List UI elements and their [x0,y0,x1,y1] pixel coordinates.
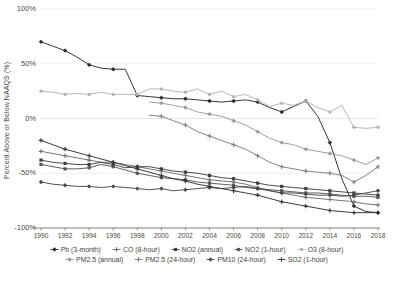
data-point-marker [112,93,115,96]
data-point-marker [352,204,356,208]
data-point-marker [304,187,307,190]
legend-marker-icon [65,256,74,263]
legend-row-2: PM2.5 (annual)PM2.5 (24-hour)PM10 (24-ho… [65,256,328,263]
legend-item-so2-1-hour[interactable]: SO2 (1-hour) [277,256,328,263]
data-point-marker [63,154,67,158]
legend-item-no2-annual[interactable]: NO2 (annual) [171,246,223,253]
legend-marker-icon [134,256,143,263]
legend-marker-icon [206,256,215,263]
legend-item-label: Pb (3-month) [61,246,101,253]
data-point-marker [280,200,284,204]
data-point-marker [376,210,380,214]
legend-item-pb-3-month[interactable]: Pb (3-month) [50,246,101,253]
data-point-marker [207,178,211,182]
data-point-marker [231,189,235,193]
legend-item-co-8-hour[interactable]: CO (8-hour) [112,246,160,253]
data-point-marker [352,210,356,214]
data-point-marker [63,48,67,52]
data-point-marker [88,163,91,166]
data-point-marker [255,129,259,133]
data-point-marker [137,257,141,261]
data-point-marker [231,143,235,147]
data-point-marker [255,154,259,158]
data-point-marker [376,156,380,160]
data-point-marker [328,171,332,175]
data-point-marker [352,180,356,184]
data-point-marker [376,203,380,207]
data-point-marker [174,248,177,251]
data-point-marker [160,167,163,170]
data-point-marker [39,138,43,142]
legend-item-label: PM10 (24-hour) [217,256,265,263]
data-point-marker [136,93,139,96]
data-point-marker [87,184,91,188]
data-point-marker [279,257,283,261]
data-point-marker [231,118,235,122]
legend-item-pm2-5-annual[interactable]: PM2.5 (annual) [65,256,123,263]
legend-item-o3-8-hour[interactable]: O3 (8-hour) [297,246,344,253]
data-point-marker [376,189,380,193]
data-point-marker [280,110,284,114]
series-5 [149,101,380,165]
data-point-marker [63,167,66,170]
data-point-marker [63,93,66,96]
data-point-marker [231,180,235,184]
data-point-marker [39,149,43,153]
data-point-marker [352,126,355,129]
series-4 [39,87,379,129]
legend-item-pm2-5-24-hour[interactable]: PM2.5 (24-hour) [134,256,195,263]
legend-item-label: O3 (8-hour) [308,246,344,253]
data-point-marker [328,197,332,201]
data-point-marker [304,147,308,151]
data-point-marker [111,184,115,188]
data-point-marker [328,189,331,192]
data-point-marker [184,91,187,94]
data-point-marker [159,114,163,118]
data-point-marker [87,154,91,158]
data-point-marker [183,187,187,191]
data-point-marker [304,99,307,102]
data-point-marker [63,162,66,165]
data-point-marker [112,165,115,168]
data-point-marker [39,159,42,162]
data-point-marker [39,40,43,44]
data-point-marker [52,247,56,251]
data-point-marker [280,140,284,144]
data-point-marker [87,93,90,96]
data-point-marker [160,87,163,90]
legend-marker-icon [50,246,59,253]
chart-container: Percent Above or Below NAAQS (%) 100%50%… [0,0,393,282]
legend-item-label: NO2 (1-hour) [245,246,286,253]
data-point-marker [67,257,71,261]
data-point-marker [208,174,211,177]
data-point-marker [376,126,379,129]
data-point-marker [183,97,187,101]
data-point-marker [135,186,139,190]
data-point-marker [231,99,235,103]
data-point-marker [207,134,211,138]
series-1 [39,149,380,207]
data-point-marker [114,247,118,251]
data-point-marker [376,196,379,199]
data-point-marker [136,172,139,175]
chart-legend: Pb (3-month)CO (8-hour)NO2 (annual)NO2 (… [0,246,393,263]
legend-item-label: PM2.5 (24-hour) [145,256,195,263]
data-point-marker [304,204,308,208]
legend-marker-icon [171,246,180,253]
series-line [149,102,378,164]
legend-item-label: SO2 (1-hour) [288,256,328,263]
legend-item-no2-1-hour[interactable]: NO2 (1-hour) [234,246,286,253]
data-point-marker [299,248,302,251]
data-point-marker [39,89,42,92]
data-point-marker [209,257,213,261]
data-point-marker [352,158,356,162]
legend-marker-icon [297,246,306,253]
legend-marker-icon [234,246,243,253]
legend-item-pm10-24-hour[interactable]: PM10 (24-hour) [206,256,265,263]
data-point-marker [111,67,115,71]
legend-row-1: Pb (3-month)CO (8-hour)NO2 (annual)NO2 (… [50,246,344,253]
data-point-marker [207,112,211,116]
data-point-marker [39,180,43,184]
data-point-marker [256,98,259,101]
data-point-marker [328,208,332,212]
